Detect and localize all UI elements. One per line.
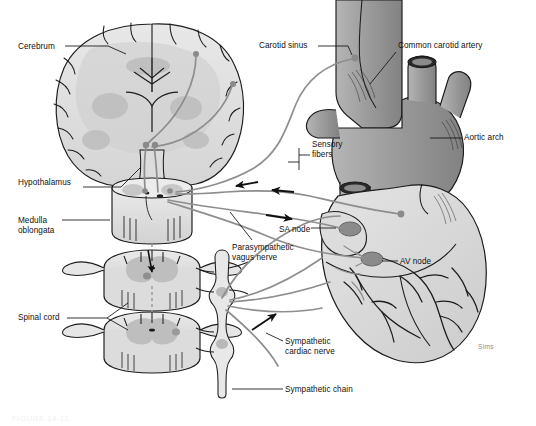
label-medulla-oblongata: Medulla oblongata — [18, 216, 54, 237]
sa-node — [339, 222, 361, 236]
vessel-lumen-2 — [344, 184, 366, 191]
hypothalamus-nucleus-right — [152, 142, 158, 148]
medulla-center-right — [167, 188, 173, 194]
label-sensory-fibers: Sensory fibers — [312, 140, 342, 161]
hypothalamus-nucleus-left — [143, 142, 149, 148]
medulla-nucleus-marker-right — [157, 194, 163, 198]
cord-lower-canal — [149, 328, 155, 331]
label-aortic-arch: Aortic arch — [464, 133, 504, 143]
label-sympathetic-cardiac: Sympathetic cardiac nerve — [285, 337, 335, 358]
figure-caption: FIGURE 14-11 — [12, 414, 69, 423]
aortic-arch-receptor — [398, 211, 405, 218]
branch-lumen-1 — [412, 59, 432, 66]
lateral-horn-upper — [143, 273, 151, 280]
artist-signature: Sims — [478, 342, 494, 352]
label-spinal-cord: Spinal cord — [18, 313, 60, 323]
anatomical-figure — [0, 0, 536, 426]
common-carotid-artery — [336, 0, 402, 128]
label-cerebrum: Cerebrum — [18, 42, 55, 52]
cortical-origin-2 — [230, 81, 236, 87]
medulla-center-left — [142, 188, 148, 194]
label-carotid-sinus: Carotid sinus — [259, 41, 307, 51]
cord-lower-lateral-horn — [172, 329, 180, 336]
label-parasympathetic-vagus: Parasympathetic vagus nerve — [232, 243, 294, 264]
cortical-origin-1 — [193, 51, 199, 57]
label-common-carotid: Common carotid artery — [398, 41, 482, 51]
carotid-sinus-receptor — [352, 55, 359, 62]
label-sa-node: SA node — [279, 225, 310, 235]
label-av-node: AV node — [400, 257, 431, 267]
label-sympathetic-chain: Sympathetic chain — [285, 385, 353, 395]
av-node — [361, 252, 383, 266]
label-hypothalamus: Hypothalamus — [18, 178, 71, 188]
